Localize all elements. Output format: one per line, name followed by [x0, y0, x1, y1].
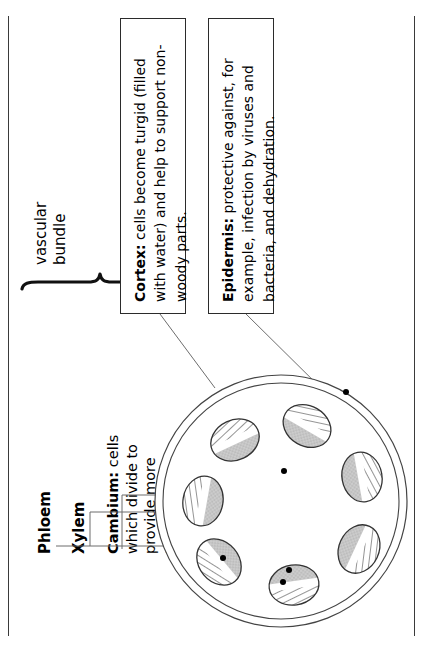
callout-box-cortex: Cortex: cells become turgid (filled with… — [120, 18, 186, 314]
marker-dot-cortex — [281, 468, 287, 474]
callout-cortex-term: Cortex: — [132, 244, 148, 302]
callout-box-epidermis: Epidermis: protective against, for examp… — [208, 18, 274, 314]
rotated-diagram-canvas: Phloem Xylem Cambium: cells which divide… — [0, 0, 424, 650]
stem-cross-section-diagram — [150, 370, 412, 632]
marker-dot-xylem — [280, 579, 286, 585]
callout-epidermis-term: Epidermis: — [220, 218, 236, 302]
marker-dot-cambium — [220, 555, 226, 561]
marker-dot-phloem — [286, 567, 292, 573]
marker-dot-epidermis — [343, 389, 349, 395]
page-canvas: Phloem Xylem Cambium: cells which divide… — [0, 0, 424, 650]
